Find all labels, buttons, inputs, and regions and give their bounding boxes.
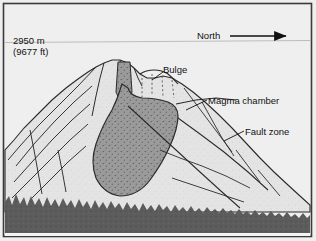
elevation-meters: 2950 m [13, 35, 48, 46]
bottom-margin [5, 233, 310, 236]
elevation-label: 2950 m (9677 ft) [13, 35, 48, 57]
diagram-canvas: 2950 m (9677 ft) North Bulge Magma chamb… [0, 0, 316, 241]
north-label: North [197, 30, 220, 41]
bulge-label: Bulge [163, 64, 187, 75]
magma-chamber-label: Magma chamber [208, 95, 279, 106]
elevation-feet: (9677 ft) [13, 46, 48, 57]
fault-zone-label: Fault zone [245, 126, 289, 137]
